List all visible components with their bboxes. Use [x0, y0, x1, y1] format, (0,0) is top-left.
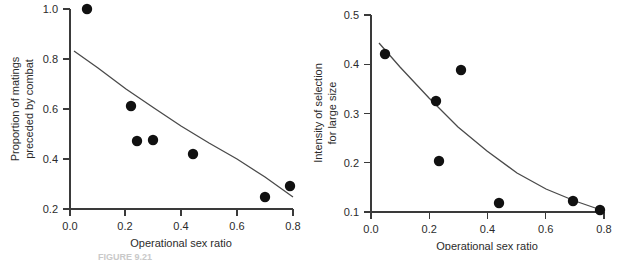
chart-panel-left: 1.0 0.8 0.6 0.4 0.2 0.0 0.2 0.4 0.6 0.8 …: [0, 0, 312, 250]
data-point: [494, 198, 504, 208]
right-y-label-0.5: 0.5: [344, 9, 359, 21]
right-y-tick-labels: 0.5 0.4 0.3 0.2 0.1: [344, 9, 359, 218]
left-y-label-0.2: 0.2: [43, 203, 58, 215]
data-point: [595, 205, 605, 215]
left-y-axis-title-line2: preceded by combat: [23, 59, 35, 159]
right-y-label-0.4: 0.4: [344, 58, 359, 70]
left-y-label-0.4: 0.4: [43, 153, 58, 165]
data-point: [132, 136, 142, 146]
right-y-axis-title: Intensity of selection for large size: [312, 63, 338, 163]
left-y-label-0.8: 0.8: [43, 53, 58, 65]
figure-caption: FIGURE 9.21: [0, 252, 624, 260]
right-x-label-0.0: 0.0: [363, 223, 378, 235]
chart-left-svg: 1.0 0.8 0.6 0.4 0.2 0.0 0.2 0.4 0.6 0.8 …: [0, 0, 312, 250]
left-x-label-0.2: 0.2: [117, 220, 132, 232]
data-point: [188, 149, 198, 159]
right-x-tick-labels: 0.0 0.2 0.4 0.6 0.8: [363, 223, 611, 235]
left-x-label-0.8: 0.8: [285, 220, 300, 232]
data-point: [82, 4, 92, 14]
data-point: [431, 96, 441, 106]
right-x-label-0.4: 0.4: [480, 223, 495, 235]
left-x-label-0.0: 0.0: [62, 220, 77, 232]
left-fit-curve: [74, 51, 293, 197]
left-x-tick-labels: 0.0 0.2 0.4 0.6 0.8: [62, 220, 300, 232]
right-y-label-0.1: 0.1: [344, 206, 359, 218]
figure-caption-strip: FIGURE 9.21: [0, 252, 624, 260]
right-fit-curve: [379, 43, 604, 211]
data-point: [456, 65, 466, 75]
data-point: [285, 181, 295, 191]
right-x-label-0.6: 0.6: [538, 223, 553, 235]
data-point: [434, 156, 444, 166]
figure-two-panel-scatter: 1.0 0.8 0.6 0.4 0.2 0.0 0.2 0.4 0.6 0.8 …: [0, 0, 624, 260]
left-y-axis-title: Proportion of matings preceded by combat: [9, 56, 35, 161]
right-y-axis-title-line2: for large size: [326, 82, 338, 145]
data-point: [148, 135, 158, 145]
left-y-axis-title-line1: Proportion of matings: [9, 56, 21, 161]
left-y-tick-labels: 1.0 0.8 0.6 0.4 0.2: [43, 3, 58, 215]
chart-panel-right: 0.5 0.4 0.3 0.2 0.1 0.0 0.2 0.4 0.6 0.8 …: [312, 0, 624, 250]
left-data-points: [82, 4, 295, 202]
right-y-label-0.3: 0.3: [344, 108, 359, 120]
right-y-label-0.2: 0.2: [344, 157, 359, 169]
right-x-axis-title: Operational sex ratio: [436, 240, 538, 250]
left-y-label-1.0: 1.0: [43, 3, 58, 15]
right-axes: [364, 15, 604, 219]
left-x-label-0.6: 0.6: [229, 220, 244, 232]
right-y-axis-title-line1: Intensity of selection: [312, 63, 324, 163]
data-point: [568, 196, 578, 206]
left-x-label-0.4: 0.4: [173, 220, 188, 232]
data-point: [260, 192, 270, 202]
right-x-label-0.8: 0.8: [596, 223, 611, 235]
data-point: [126, 101, 136, 111]
data-point: [380, 49, 390, 59]
right-data-points: [380, 49, 605, 215]
right-x-label-0.2: 0.2: [422, 223, 437, 235]
chart-right-svg: 0.5 0.4 0.3 0.2 0.1 0.0 0.2 0.4 0.6 0.8 …: [312, 0, 624, 250]
left-x-axis-title: Operational sex ratio: [130, 237, 232, 249]
left-axes: [63, 9, 293, 216]
left-y-label-0.6: 0.6: [43, 103, 58, 115]
